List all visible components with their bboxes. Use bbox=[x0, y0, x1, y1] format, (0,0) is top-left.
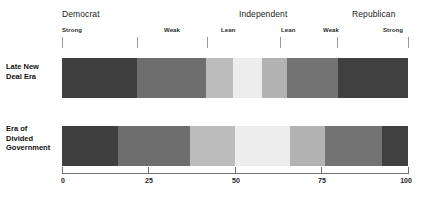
top-tick-2 bbox=[207, 37, 208, 48]
x-axis-tick-100 bbox=[408, 167, 409, 174]
tier-label-weak-democrat: Weak bbox=[164, 27, 180, 33]
bar-segment-strong-democrat bbox=[62, 58, 137, 98]
bar-segment-strong-republican bbox=[338, 58, 408, 98]
x-axis-tick-75 bbox=[321, 167, 322, 174]
tier-label-lean-democrat: Lean bbox=[221, 27, 235, 33]
row-label-line: Deal Era bbox=[6, 72, 60, 82]
x-axis-tick-0 bbox=[62, 167, 63, 174]
x-axis-label-75: 75 bbox=[318, 177, 326, 184]
group-header-democrat: Democrat bbox=[62, 9, 100, 19]
bar-segment-strong-republican bbox=[382, 126, 408, 166]
row-label-line: Era of bbox=[6, 124, 60, 134]
tier-label-lean-republican: Lean bbox=[281, 27, 295, 33]
group-header-republican: Republican bbox=[352, 9, 396, 19]
x-axis-tick-50 bbox=[235, 167, 236, 174]
x-axis-label-50: 50 bbox=[232, 177, 240, 184]
top-tick-5 bbox=[408, 37, 409, 48]
bar-segment-lean-democrat bbox=[190, 126, 235, 166]
x-axis-label-0: 0 bbox=[61, 177, 65, 184]
row-label-era-of-divided-government: Era of Divided Government bbox=[6, 124, 60, 153]
x-axis-label-25: 25 bbox=[145, 177, 153, 184]
tier-label-weak-republican: Weak bbox=[323, 27, 339, 33]
bar-segment-strong-democrat bbox=[62, 126, 118, 166]
row-label-line: Divided bbox=[6, 134, 60, 144]
bar-era-of-divided-government bbox=[62, 126, 408, 166]
row-label-line: Late New bbox=[6, 62, 60, 72]
bar-segment-weak-democrat bbox=[137, 58, 206, 98]
bar-segment-independent bbox=[233, 58, 262, 98]
bar-segment-weak-republican bbox=[287, 58, 338, 98]
tier-label-strong-republican: Strong bbox=[383, 27, 403, 33]
top-tick-0 bbox=[62, 37, 63, 48]
bar-segment-weak-democrat bbox=[118, 126, 190, 166]
top-tick-1 bbox=[137, 37, 138, 48]
row-label-late-new-deal-era: Late New Deal Era bbox=[6, 62, 60, 81]
top-tick-4 bbox=[337, 37, 338, 48]
x-axis-label-100: 100 bbox=[400, 177, 412, 184]
bar-segment-lean-republican bbox=[290, 126, 325, 166]
bar-segment-independent bbox=[235, 126, 290, 166]
group-header-independent: Independent bbox=[239, 9, 287, 19]
bar-late-new-deal-era bbox=[62, 58, 408, 98]
x-axis-tick-25 bbox=[148, 167, 149, 174]
tier-label-strong-democrat: Strong bbox=[62, 27, 82, 33]
top-tick-3 bbox=[280, 37, 281, 48]
bar-segment-lean-republican bbox=[262, 58, 287, 98]
bar-segment-lean-democrat bbox=[206, 58, 233, 98]
stacked-bar-chart: Democrat Independent Republican Strong W… bbox=[0, 0, 422, 205]
bar-segment-weak-republican bbox=[325, 126, 382, 166]
row-label-line: Government bbox=[6, 143, 60, 153]
